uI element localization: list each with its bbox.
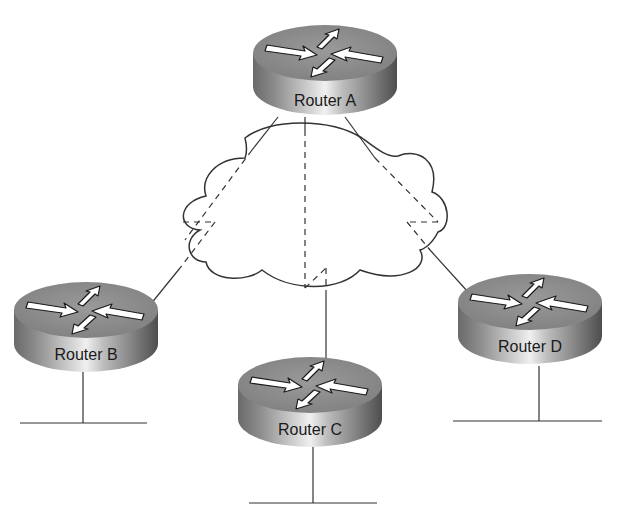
lan-segment-d bbox=[453, 366, 602, 421]
network-diagram: Router A Router B Router C Router D bbox=[0, 0, 622, 518]
router-c[interactable]: Router C bbox=[238, 357, 382, 447]
cloud bbox=[183, 123, 447, 287]
router-a[interactable]: Router A bbox=[253, 25, 397, 115]
router-c-label: Router C bbox=[278, 421, 342, 438]
router-b[interactable]: Router B bbox=[14, 282, 158, 372]
router-d[interactable]: Router D bbox=[458, 274, 602, 364]
router-a-label: Router A bbox=[294, 92, 357, 109]
router-b-label: Router B bbox=[54, 346, 117, 363]
lan-segment-c bbox=[249, 447, 377, 503]
lan-segment-b bbox=[20, 372, 147, 423]
router-d-label: Router D bbox=[498, 338, 562, 355]
